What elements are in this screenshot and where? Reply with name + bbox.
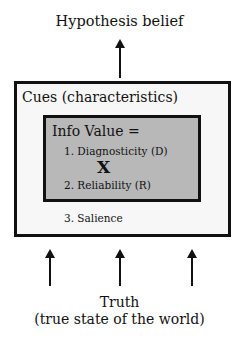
- arrow-up-icon: [191, 257, 193, 286]
- multiply-operator: X: [97, 157, 110, 177]
- cues-box-title: Cues (characteristics): [22, 89, 178, 105]
- salience-item: 3. Salience: [64, 212, 123, 224]
- info-value-title: Info Value =: [52, 123, 140, 139]
- truth-subtitle: (true state of the world): [0, 311, 239, 327]
- truth-label: Truth: [0, 294, 239, 310]
- diagnosticity-item: 1. Diagnosticity (D): [64, 145, 168, 157]
- arrow-up-icon: [119, 257, 121, 286]
- arrow-up-icon: [119, 47, 121, 78]
- reliability-item: 2. Reliability (R): [64, 179, 151, 191]
- hypothesis-belief-label: Hypothesis belief: [0, 13, 239, 29]
- arrow-up-icon: [49, 257, 51, 286]
